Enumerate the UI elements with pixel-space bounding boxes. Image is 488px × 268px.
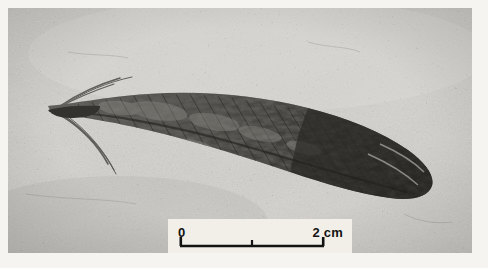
photograph-canvas xyxy=(8,8,472,253)
photo-vignette xyxy=(8,8,472,253)
scale-bar: 0 2 cm xyxy=(168,219,352,253)
fossil-photograph: 0 2 cm xyxy=(8,8,472,253)
scale-end-label: 2 cm xyxy=(313,226,343,239)
figure-root: 0 2 cm xyxy=(0,0,488,268)
scale-start-label: 0 xyxy=(178,226,185,239)
